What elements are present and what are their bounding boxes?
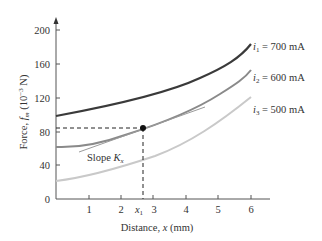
x-tick-label: 1: [86, 204, 91, 215]
x-tick-label: 2: [118, 204, 123, 215]
x-axis-title: Distance, x (mm): [121, 222, 194, 234]
legend-i3: i3 = 500 mA: [253, 104, 305, 117]
y-axis-arrow-icon: [54, 17, 59, 24]
y-tick-label: 0: [45, 194, 50, 205]
legend-i1: i1 = 700 mA: [253, 41, 305, 54]
slope-label: Slope Kx: [87, 152, 125, 165]
y-axis-title: Force, fm (10−3 N): [17, 74, 31, 149]
y-tick-label: 160: [34, 59, 50, 70]
y-tick-label: 40: [40, 160, 51, 171]
x-ticks: [89, 195, 251, 199]
x-tick-label: 5: [215, 204, 220, 215]
x-tick-labels: 1 2 3 4 5 6: [86, 204, 253, 215]
x-tick-label: 3: [151, 204, 156, 215]
y-tick-labels: 0 40 80 120 160 200: [34, 25, 50, 205]
x-tick-label: 4: [183, 204, 189, 215]
y-tick-label: 200: [34, 25, 50, 36]
force-distance-chart: 0 40 80 120 160 200 1 2 3 4 5 6 x1 Slope…: [0, 0, 322, 241]
y-ticks: [56, 30, 60, 165]
curve-i2-600mA: [56, 70, 251, 147]
y-tick-label: 120: [34, 93, 50, 104]
operating-point-marker: [140, 125, 146, 131]
legend-i2: i2 = 600 mA: [253, 72, 305, 85]
x1-label: x1: [134, 204, 144, 217]
y-tick-label: 80: [40, 127, 51, 138]
curve-i1-700mA: [56, 44, 251, 116]
x-tick-label: 6: [248, 204, 253, 215]
